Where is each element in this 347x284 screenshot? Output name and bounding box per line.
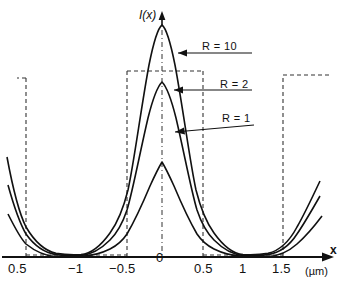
x-tick-label-1p5: 1.5 [272,262,291,275]
plot-canvas [0,0,347,284]
x-tick-label-0p5: 0.5 [194,262,213,275]
y-axis-arrow [159,11,166,26]
x-axis-label: x [330,244,337,256]
y-axis-arrowhead [159,11,166,20]
x-tick-label-1: 1 [239,262,246,275]
x-tick-label-neg1: −1 [68,262,83,275]
curve-r2 [8,82,320,256]
leader-r1 [175,125,254,132]
y-axis-label: I(x) [139,9,156,21]
series-label-r10: R = 10 [202,41,237,52]
series-label-r2: R = 2 [220,79,249,90]
curve-r10 [7,25,320,255]
reference-profile-dashed [17,71,330,257]
figure-container: I(x) x (µm) 0.5 −1 −0.5 0 0.5 1 1.5 R = … [0,0,347,284]
leader-r10-arrowhead [178,50,187,57]
series-label-r1: R = 1 [222,113,251,124]
x-tick-label-neg0p5: −0.5 [109,262,135,275]
x-tick-label-zero: 0 [156,251,163,264]
x-tick-label-neg1p5: 0.5 [8,262,27,275]
x-axis-unit-label: (µm) [305,266,328,277]
curve-r1 [8,162,322,257]
